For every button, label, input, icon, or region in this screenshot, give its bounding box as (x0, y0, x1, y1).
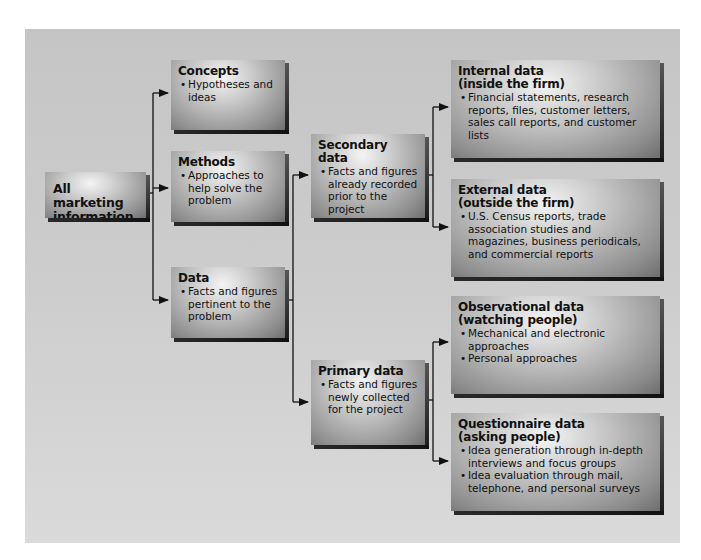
node-bullet: Facts and figures already recorded prior… (318, 165, 418, 215)
node-subtitle: (inside the firm) (458, 78, 653, 91)
node-data: Data Facts and figures pertinent to the … (171, 267, 285, 338)
node-bullet: Idea generation through in-depth intervi… (458, 444, 653, 469)
node-title: Primary data (318, 365, 418, 378)
node-secondary-data: Secondary data Facts and figures already… (311, 134, 425, 218)
node-subtitle: (watching people) (458, 314, 653, 327)
node-bullet: U.S. Census reports, trade association s… (458, 210, 653, 260)
node-primary-data: Primary data Facts and figures newly col… (311, 360, 425, 445)
node-all-marketing-information: All marketing information (45, 172, 146, 218)
node-bullet: Financial statements, research reports, … (458, 91, 653, 141)
node-title: Concepts (178, 65, 278, 78)
node-bullet: Facts and figures pertinent to the probl… (178, 285, 278, 323)
node-title: Data (178, 272, 278, 285)
node-title: Secondary data (318, 139, 418, 165)
node-subtitle: (outside the firm) (458, 197, 653, 210)
node-title: All marketing information (53, 182, 138, 224)
node-bullet: Idea evaluation through mail, telephone,… (458, 469, 653, 494)
node-internal-data: Internal data (inside the firm) Financia… (451, 60, 660, 158)
node-bullet: Hypotheses and ideas (178, 78, 278, 103)
node-methods: Methods Approaches to help solve the pro… (171, 151, 285, 222)
node-title: Methods (178, 156, 278, 169)
node-observational-data: Observational data (watching people) Mec… (451, 296, 660, 394)
node-questionnaire-data: Questionnaire data (asking people) Idea … (451, 413, 660, 511)
node-external-data: External data (outside the firm) U.S. Ce… (451, 179, 660, 277)
node-concepts: Concepts Hypotheses and ideas (171, 60, 285, 130)
node-bullet: Mechanical and electronic approaches (458, 327, 653, 352)
node-bullet: Personal approaches (458, 352, 653, 365)
node-bullet: Facts and figures newly collected for th… (318, 378, 418, 416)
node-subtitle: (asking people) (458, 431, 653, 444)
node-bullet: Approaches to help solve the problem (178, 169, 278, 207)
